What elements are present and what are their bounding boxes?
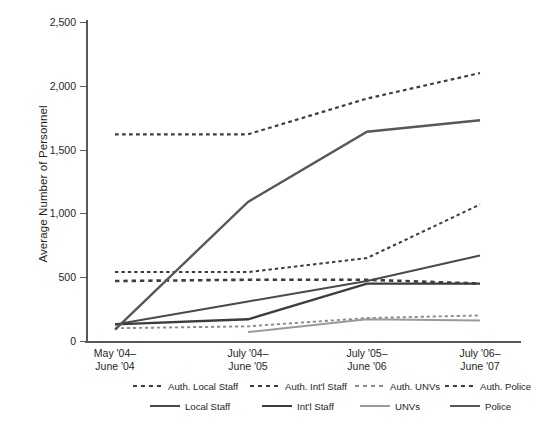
series-line (248, 319, 480, 332)
legend-item[interactable]: UNVs (360, 399, 420, 415)
legend-row-actual: Local StaffInt'l StaffUNVsPolice (0, 399, 527, 419)
legend-item[interactable]: Local Staff (150, 399, 230, 415)
chart-legend: Auth. Local StaffAuth. Int'l StaffAuth. … (0, 379, 527, 419)
legend-label: Auth. Local Staff (168, 381, 238, 392)
legend-label: Auth. UNVs (390, 381, 440, 392)
solid-line-icon (360, 401, 390, 411)
legend-label: Auth. Police (480, 381, 531, 392)
legend-label: Int'l Staff (297, 401, 334, 412)
solid-line-icon (150, 401, 180, 411)
series-line (115, 256, 480, 325)
legend-item[interactable]: Auth. Int'l Staff (250, 379, 347, 395)
series-line (115, 284, 480, 325)
series-line (115, 120, 480, 329)
solid-line-icon (262, 401, 292, 411)
dashed-line-icon (133, 381, 163, 391)
dashed-line-icon (355, 381, 385, 391)
legend-row-authorized: Auth. Local StaffAuth. Int'l StaffAuth. … (0, 379, 527, 399)
dashed-line-icon (445, 381, 475, 391)
legend-item[interactable]: Int'l Staff (262, 399, 334, 415)
series-line (115, 204, 480, 272)
legend-label: Auth. Int'l Staff (285, 381, 347, 392)
dashed-line-icon (250, 381, 280, 391)
legend-label: UNVs (395, 401, 420, 412)
legend-item[interactable]: Auth. UNVs (355, 379, 440, 395)
legend-item[interactable]: Police (450, 399, 511, 415)
solid-line-icon (450, 401, 480, 411)
legend-label: Police (485, 401, 511, 412)
legend-item[interactable]: Auth. Police (445, 379, 531, 395)
legend-item[interactable]: Auth. Local Staff (133, 379, 238, 395)
legend-label: Local Staff (185, 401, 230, 412)
